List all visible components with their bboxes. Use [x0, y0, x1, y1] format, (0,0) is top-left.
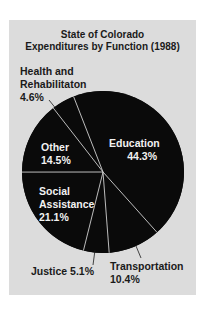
label-other: Other 14.5% [41, 141, 71, 167]
label-transport-value: 10.4% [110, 273, 184, 286]
label-justice: Justice 5.1% [31, 265, 94, 278]
label-health-name-1: Health and [20, 65, 87, 78]
label-social-name-1: Social [39, 185, 94, 198]
label-education-name: Education [109, 137, 157, 150]
label-education-value: 44.3% [109, 150, 157, 163]
label-transport-name: Transportation [110, 260, 184, 273]
label-health: Health and Rehabilitaton 4.6% [20, 65, 87, 104]
label-social-name-2: Assistance [39, 198, 94, 211]
label-education: Education 44.3% [109, 137, 157, 163]
label-other-name: Other [41, 141, 71, 154]
label-transportation: Transportation 10.4% [110, 260, 184, 286]
label-other-value: 14.5% [41, 154, 71, 167]
label-social-assistance: Social Assistance 21.1% [39, 185, 94, 224]
label-social-value: 21.1% [39, 211, 94, 224]
leader-transportation [136, 246, 141, 258]
label-health-name-2: Rehabilitaton [20, 78, 87, 91]
label-health-value: 4.6% [20, 91, 87, 104]
